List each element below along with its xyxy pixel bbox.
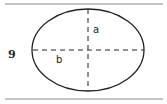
label-b: b [56,54,62,65]
figure-number: 9 [8,48,16,61]
ellipse-diagram: 9 a b [0,0,167,104]
label-a: a [93,24,99,35]
